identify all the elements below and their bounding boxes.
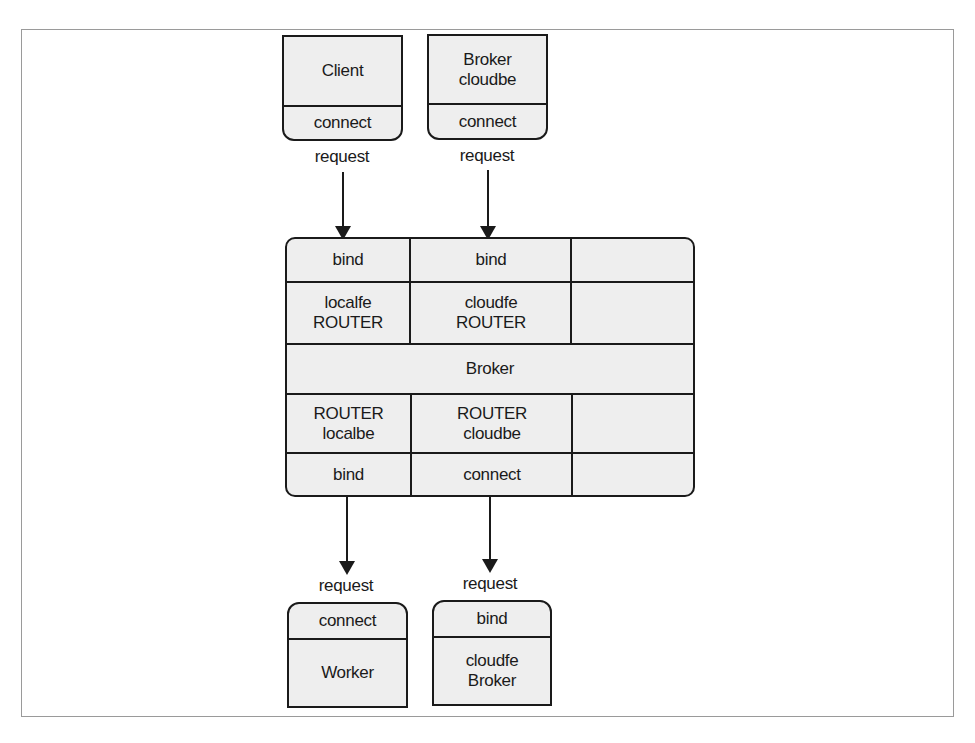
remote-broker-label: Broker cloudbe <box>429 36 546 103</box>
client-socket-connect: connect <box>284 107 401 139</box>
cloudfe-router: cloudfe ROUTER <box>411 283 571 343</box>
remote-socket-bind: bind <box>434 602 550 636</box>
empty-cell <box>573 239 695 281</box>
worker-label: Worker <box>289 640 406 706</box>
divider <box>410 393 412 497</box>
worker-node: connect Worker <box>287 602 408 708</box>
divider <box>409 239 411 343</box>
arrow-remote-to-cloudfe <box>487 170 489 238</box>
localbe-bind: bind <box>287 454 410 495</box>
client-node: Client connect <box>282 35 403 141</box>
arrow-cloudbe-to-remote <box>489 497 491 571</box>
broker-node: bind bind localfe ROUTER cloudfe ROUTER … <box>285 237 695 497</box>
remote-broker-socket-connect: connect <box>429 105 546 138</box>
broker-label: Broker <box>287 345 693 393</box>
edge-label-request: request <box>302 147 382 167</box>
arrow-client-to-localfe <box>342 172 344 238</box>
divider <box>571 393 573 497</box>
localbe-router: ROUTER localbe <box>287 395 410 452</box>
remote-broker-node: Broker cloudbe connect <box>427 34 548 140</box>
empty-cell <box>574 454 695 495</box>
cloudbe-connect: connect <box>412 454 572 495</box>
empty-cell <box>573 283 695 343</box>
remote-cloudfe-broker-node: bind cloudfe Broker <box>432 600 552 706</box>
worker-socket-connect: connect <box>289 604 406 638</box>
edge-label-request: request <box>447 146 527 166</box>
edge-label-request: request <box>450 574 530 594</box>
edge-label-request: request <box>306 576 386 596</box>
cloudfe-bind: bind <box>411 239 571 281</box>
localfe-bind: bind <box>287 239 409 281</box>
cloudbe-router: ROUTER cloudbe <box>412 395 572 452</box>
remote-cloudfe-broker-label: cloudfe Broker <box>434 638 550 704</box>
localfe-router: localfe ROUTER <box>287 283 409 343</box>
empty-cell <box>574 395 695 452</box>
divider <box>570 239 572 343</box>
client-label: Client <box>284 37 401 105</box>
arrow-localbe-to-worker <box>346 497 348 573</box>
